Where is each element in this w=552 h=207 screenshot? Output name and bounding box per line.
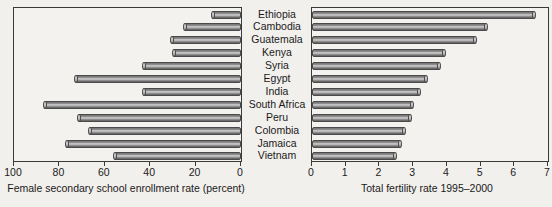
category-label-india: India <box>248 85 306 98</box>
bar-end-cap <box>424 75 428 83</box>
category-label-south-africa: South Africa <box>248 98 306 111</box>
axis-tick-label: 40 <box>143 166 155 178</box>
bar-right-vietnam <box>312 152 396 160</box>
axis-tick-label: 100 <box>4 166 22 178</box>
axis-tick-label: 4 <box>443 166 449 178</box>
bar-left-colombia <box>89 127 241 135</box>
category-label-jamaica: Jamaica <box>248 137 306 150</box>
bar-right-ethiopia <box>312 11 535 19</box>
axis-tick-label: 0 <box>237 166 243 178</box>
x-axis-title-enrollment: Female secondary school enrollment rate … <box>0 182 252 195</box>
bar-rows-fertility <box>312 8 548 161</box>
bar-end-cap <box>183 23 187 31</box>
axis-tick-label: 60 <box>98 166 110 178</box>
bar-end-cap <box>402 127 406 135</box>
bar-row <box>14 47 241 60</box>
bar-right-egypt <box>312 75 427 83</box>
bar-row <box>14 34 241 47</box>
bar-row <box>14 112 241 125</box>
figure: 100806040200 Female secondary school enr… <box>0 0 552 207</box>
bar-row <box>312 34 548 47</box>
axis-tick-label: 3 <box>409 166 415 178</box>
bar-end-cap <box>437 62 441 70</box>
category-label-egypt: Egypt <box>248 72 306 85</box>
bar-row <box>14 86 241 99</box>
bar-row <box>312 99 548 112</box>
bar-row <box>312 47 548 60</box>
axis-tick-label: 6 <box>510 166 516 178</box>
bar-end-cap <box>532 11 536 19</box>
bar-end-cap <box>408 114 412 122</box>
x-axis-title-fertility: Total fertility rate 1995–2000 <box>302 182 552 195</box>
bar-row <box>312 73 548 86</box>
bar-left-syria <box>143 62 241 70</box>
bar-end-cap <box>170 36 174 44</box>
bar-right-south-africa <box>312 101 413 109</box>
bar-row <box>14 138 241 151</box>
category-label-guatemala: Guatemala <box>248 33 306 46</box>
bar-left-ethiopia <box>212 11 242 19</box>
category-label-kenya: Kenya <box>248 46 306 59</box>
category-label-cambodia: Cambodia <box>248 20 306 33</box>
bar-row <box>14 9 241 22</box>
bar-row <box>312 60 548 73</box>
bar-left-peru <box>78 114 241 122</box>
axis-tick-label: 1 <box>342 166 348 178</box>
bar-row <box>14 21 241 34</box>
bar-end-cap <box>113 152 117 160</box>
bar-right-colombia <box>312 127 405 135</box>
bar-left-jamaica <box>66 140 241 148</box>
bar-end-cap <box>88 127 92 135</box>
bar-right-india <box>312 88 420 96</box>
axis-tick-label: 5 <box>477 166 483 178</box>
bar-left-vietnam <box>114 152 241 160</box>
bar-right-syria <box>312 62 440 70</box>
bar-left-cambodia <box>184 23 241 31</box>
bar-end-cap <box>77 114 81 122</box>
category-label-ethiopia: Ethiopia <box>248 8 306 21</box>
bar-row <box>14 60 241 73</box>
bar-right-guatemala <box>312 36 476 44</box>
bar-right-kenya <box>312 49 445 57</box>
bar-row <box>312 86 548 99</box>
bar-row <box>14 125 241 138</box>
category-label-vietnam: Vietnam <box>248 149 306 162</box>
bar-left-kenya <box>173 49 241 57</box>
bar-end-cap <box>417 88 421 96</box>
bar-end-cap <box>142 88 146 96</box>
bar-end-cap <box>473 36 477 44</box>
bar-row <box>312 125 548 138</box>
bar-end-cap <box>142 62 146 70</box>
bar-end-cap <box>211 11 215 19</box>
bar-row <box>312 21 548 34</box>
bar-end-cap <box>172 49 176 57</box>
bar-right-cambodia <box>312 23 487 31</box>
axis-tick-label: 80 <box>53 166 65 178</box>
axis-tick-label: 0 <box>308 166 314 178</box>
bar-left-egypt <box>75 75 241 83</box>
bar-end-cap <box>442 49 446 57</box>
category-label-syria: Syria <box>248 59 306 72</box>
x-axis-enrollment: 100806040200 <box>13 162 242 180</box>
bar-end-cap <box>74 75 78 83</box>
x-axis-fertility: 01234567 <box>311 162 549 180</box>
bar-left-south-africa <box>44 101 241 109</box>
bar-row <box>312 112 548 125</box>
plot-area-enrollment <box>13 7 242 162</box>
bar-right-peru <box>312 114 411 122</box>
bar-end-cap <box>484 23 488 31</box>
axis-tick-label: 20 <box>189 166 201 178</box>
category-label-peru: Peru <box>248 111 306 124</box>
bar-end-cap <box>65 140 69 148</box>
bar-row <box>14 99 241 112</box>
bar-rows-enrollment <box>14 8 241 161</box>
bar-end-cap <box>43 101 47 109</box>
category-labels: EthiopiaCambodiaGuatemalaKenyaSyriaEgypt… <box>248 7 306 162</box>
panel-enrollment: 100806040200 <box>0 0 250 207</box>
bar-row <box>312 138 548 151</box>
bar-row <box>312 9 548 22</box>
axis-tick-label: 2 <box>376 166 382 178</box>
axis-tick-label: 7 <box>544 166 550 178</box>
bar-end-cap <box>398 140 402 148</box>
plot-area-fertility <box>311 7 549 162</box>
